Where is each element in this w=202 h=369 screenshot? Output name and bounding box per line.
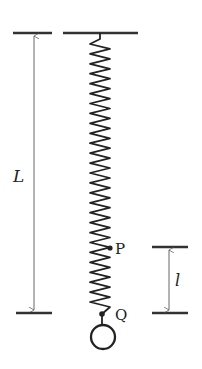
point-P-dot (107, 245, 112, 250)
label-Q: Q (115, 306, 127, 324)
point-Q-dot (99, 311, 105, 317)
label-l: l (175, 271, 180, 290)
ring-mass (91, 325, 115, 349)
label-P: P (115, 240, 125, 258)
label-L: L (12, 166, 24, 186)
spring (90, 33, 110, 314)
spring-diagram: L P Q l (0, 0, 202, 369)
